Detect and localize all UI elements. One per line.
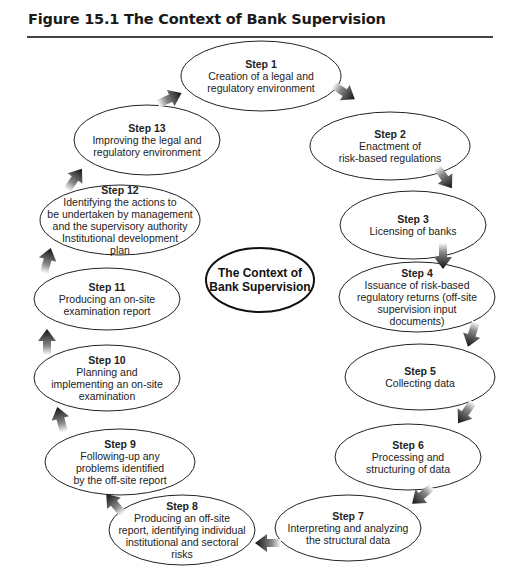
step-13-node: Step 13 Improving the legal and regulato… [74,105,220,175]
step-11-node: Step 11 Producing an on-site examination… [34,268,180,330]
step-label: Step 8 [166,500,198,512]
step-label: Step 9 [104,438,136,450]
step-4-node: Step 4 Issuance of risk-based regulatory… [339,262,495,332]
step-label: Step 7 [332,510,364,522]
step-label: Step 6 [392,439,424,451]
step-text: Planning and implementing an on-site exa… [51,366,162,402]
step-text: Identifying the actions to be undertaken… [47,196,192,256]
step-text: Producing an on-site examination report [59,293,155,317]
step-text: Improving the legal and regulatory envir… [92,134,201,158]
step-12-node: Step 12 Identifying the actions to be un… [40,185,200,255]
step-text: Issuance of risk-based regulatory return… [357,279,477,327]
step-text: Producing an off-site report, identifyin… [118,512,245,560]
step-6-node: Step 6 Processing and structuring of dat… [335,424,481,490]
step-text: Processing and structuring of data [366,451,450,475]
step-3-node: Step 3 Licensing of banks [340,191,486,259]
step-label: Step 13 [128,122,165,134]
step-text: Creation of a legal and regulatory envir… [207,70,314,94]
step-label: Step 11 [89,281,126,293]
step-9-node: Step 9 Following-up any problems identif… [45,429,195,495]
step-label: Step 3 [397,213,429,225]
step-label: Step 5 [404,365,436,377]
step-8-node: Step 8 Producing an off-site report, ide… [109,495,255,565]
step-text: Enactment of risk-based regulations [339,140,442,164]
step-text: Interpreting and analyzing the structura… [288,522,409,546]
step-label: Step 12 [101,184,138,196]
step-5-node: Step 5 Collecting data [345,344,495,410]
step-label: Step 10 [88,354,125,366]
step-label: Step 1 [245,58,277,70]
center-label: The Context of Bank Supervision [206,248,314,312]
step-1-node: Step 1 Creation of a legal and regulator… [181,41,341,111]
step-label: Step 2 [374,128,406,140]
step-10-node: Step 10 Planning and implementing an on-… [34,345,180,411]
step-text: Licensing of banks [370,225,457,237]
step-text: Following-up any problems identified by … [73,450,166,486]
step-label: Step 4 [401,267,433,279]
step-text: Collecting data [385,377,454,389]
step-7-node: Step 7 Interpreting and analyzing the st… [275,495,421,561]
step-2-node: Step 2 Enactment of risk-based regulatio… [310,112,470,180]
